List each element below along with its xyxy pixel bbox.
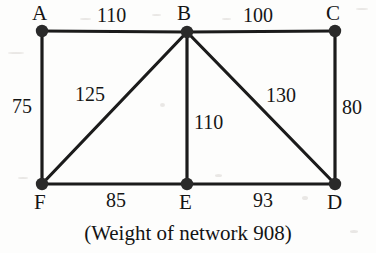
scan-speck-icon	[18, 177, 28, 179]
scan-speck-icon	[160, 103, 165, 107]
edge-weight-label-bf: 125	[75, 84, 105, 104]
graph-edge-bc	[187, 31, 335, 32]
edge-weight-label-bd: 130	[266, 85, 296, 105]
vertex-label-c: C	[326, 3, 340, 24]
vertex-label-e: E	[179, 192, 192, 213]
scan-speck-icon	[356, 8, 368, 10]
edge-layer	[42, 31, 335, 184]
edge-weight-label-bc: 100	[243, 5, 273, 25]
network-diagram-figure: ABCDEF 11010075125110130808593 (Weight o…	[0, 0, 376, 253]
edge-weight-label-ed: 93	[253, 190, 273, 210]
graph-edge-ab	[42, 31, 187, 32]
scan-speck-icon	[350, 230, 358, 233]
figure-caption: (Weight of network 908)	[0, 222, 376, 245]
vertex-label-a: A	[32, 3, 47, 24]
edge-weight-label-be: 110	[194, 112, 223, 132]
graph-node-e	[181, 178, 193, 190]
edge-weight-label-ab: 110	[97, 5, 126, 25]
scan-speck-icon	[152, 14, 161, 16]
scan-speck-icon	[215, 174, 222, 177]
vertex-label-d: D	[327, 192, 342, 213]
scan-speck-icon	[8, 52, 24, 54]
graph-edge-bd	[187, 32, 335, 184]
edge-weight-label-fe: 85	[106, 190, 126, 210]
graph-node-c	[329, 25, 341, 37]
scan-speck-icon	[80, 18, 91, 20]
graph-node-b	[181, 26, 193, 38]
edge-weight-label-cd: 80	[342, 97, 362, 117]
graph-node-f	[36, 178, 48, 190]
scan-speck-icon	[222, 18, 231, 20]
vertex-label-f: F	[34, 192, 46, 213]
edge-weight-label-af: 75	[12, 96, 32, 116]
graph-edge-bf	[42, 32, 187, 184]
graph-node-a	[36, 25, 48, 37]
graph-node-d	[329, 178, 341, 190]
vertex-label-b: B	[177, 3, 191, 24]
scan-speck-icon	[302, 196, 308, 200]
graph-canvas	[0, 0, 376, 253]
